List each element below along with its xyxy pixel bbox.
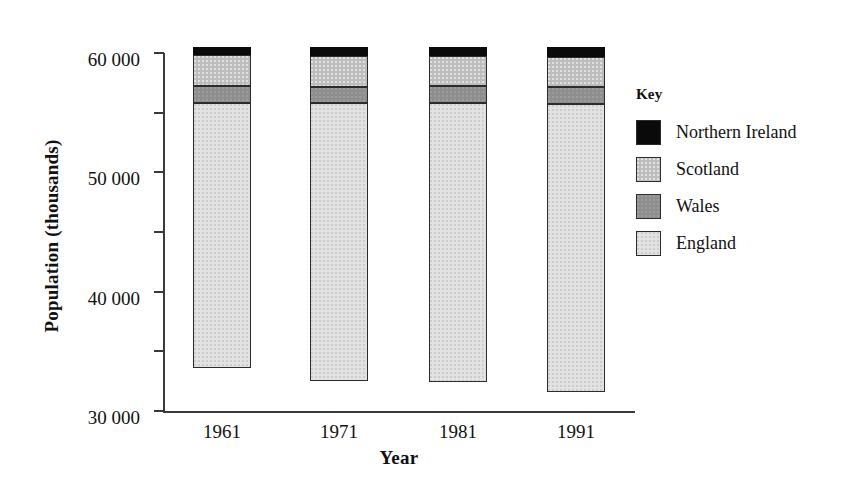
y-tick-mark: 60 000 [154,52,164,54]
legend-item-label: England [676,233,736,254]
y-tick-label: 40 000 [88,288,140,310]
bar-segment-scotland[interactable] [429,56,487,86]
legend-title: Key [636,86,841,103]
plot-area: 60 00050 00040 00030 00020 00010 0000 19… [163,45,635,413]
bar-segment-england[interactable] [429,103,487,382]
legend-swatch-icon [636,231,661,256]
legend-item-label: Wales [676,196,720,217]
y-tick-mark: 50 000 [154,112,164,114]
legend: Key Northern IrelandScotlandWalesEngland [636,86,841,262]
x-tick-label: 1971 [320,421,358,443]
y-tick-mark: 40 000 [154,171,164,173]
legend-item-label: Scotland [676,159,739,180]
bar-segment-northern-ireland[interactable] [310,47,368,56]
y-tick-label: 60 000 [88,49,140,71]
y-tick-mark: 20 000 [154,291,164,293]
y-axis-line [163,53,165,413]
y-tick-mark: 10 000 [154,350,164,352]
x-axis-title: Year [193,447,605,469]
bar-segment-wales[interactable] [310,87,368,103]
y-tick-label: 50 000 [88,168,140,190]
legend-swatch-icon [636,120,661,145]
bar-segment-northern-ireland[interactable] [547,47,605,57]
legend-item-label: Northern Ireland [676,122,796,143]
legend-item[interactable]: Wales [636,188,841,225]
bar-segment-scotland[interactable] [310,56,368,87]
bar-segment-england[interactable] [547,104,605,392]
bar-segment-scotland[interactable] [547,57,605,87]
y-tick-mark: 0 [154,410,164,412]
legend-items: Northern IrelandScotlandWalesEngland [636,114,841,262]
bar-1971[interactable] [310,47,368,381]
bar-segment-england[interactable] [193,103,251,369]
legend-swatch-icon [636,194,661,219]
legend-item[interactable]: Scotland [636,151,841,188]
stacked-bar-chart: Population (thousands) 60 00050 00040 00… [0,0,846,496]
bar-segment-wales[interactable] [193,86,251,102]
x-tick-label: 1991 [557,421,595,443]
y-tick-label: 30 000 [88,407,140,429]
bar-segment-scotland[interactable] [193,55,251,86]
x-tick-label: 1981 [439,421,477,443]
bar-segment-wales[interactable] [429,86,487,103]
bar-segment-england[interactable] [310,103,368,381]
bar-1991[interactable] [547,47,605,392]
legend-item[interactable]: England [636,225,841,262]
x-axis-line [163,411,635,413]
bar-1981[interactable] [429,47,487,382]
bar-1961[interactable] [193,47,251,368]
bar-segment-wales[interactable] [547,87,605,104]
bar-segment-northern-ireland[interactable] [193,47,251,55]
x-tick-label: 1961 [203,421,241,443]
bar-segment-northern-ireland[interactable] [429,47,487,56]
legend-swatch-icon [636,157,661,182]
y-tick-mark: 30 000 [154,231,164,233]
legend-item[interactable]: Northern Ireland [636,114,841,151]
y-axis-title: Population (thousands) [41,86,63,386]
